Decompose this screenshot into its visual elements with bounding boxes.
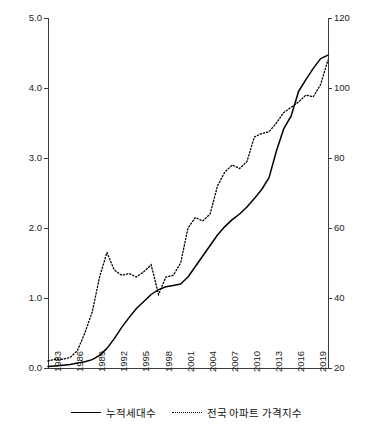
legend-label-cumulative-households: 누적세대수 [106,405,156,420]
y-axis-left-tick-mark [44,368,48,369]
y-axis-right-tick-mark [328,228,332,229]
y-axis-right-tick-mark [328,368,332,369]
series-lines [48,18,328,368]
chart-container: 0.01.02.03.04.05.0 20406080100120 198319… [0,0,373,433]
chart-legend: 누적세대수 전국 아파트 가격지수 [0,405,373,420]
y-axis-right-tick-label: 100 [334,82,350,93]
y-axis-right-tick-mark [328,298,332,299]
y-axis-right-tick-label: 40 [334,292,345,303]
y-axis-right-tick-label: 80 [334,152,345,163]
plot-area [48,18,328,368]
y-axis-right-tick-label: 20 [334,362,345,373]
y-axis-right-tick-label: 120 [334,12,350,23]
y-axis-right-tick-label: 60 [334,222,345,233]
y-axis-right-tick-mark [328,88,332,89]
y-axis-left-tick-label: 1.0 [2,292,42,303]
y-axis-right-tick-mark [328,158,332,159]
legend-swatch-solid-icon [71,408,101,417]
y-axis-left-tick-label: 0.0 [2,362,42,373]
y-axis-right-line [328,18,329,368]
legend-swatch-dotted-icon [172,408,202,417]
legend-label-apartment-price-index: 전국 아파트 가격지수 [207,405,303,420]
y-axis-left-tick-label: 4.0 [2,82,42,93]
series-line-apartment-price-index [48,60,328,361]
legend-item-apartment-price-index: 전국 아파트 가격지수 [172,405,303,420]
y-axis-left-tick-label: 3.0 [2,152,42,163]
y-axis-right-tick-mark [328,18,332,19]
legend-item-cumulative-households: 누적세대수 [71,405,156,420]
y-axis-left-tick-label: 5.0 [2,12,42,23]
y-axis-left-tick-label: 2.0 [2,222,42,233]
